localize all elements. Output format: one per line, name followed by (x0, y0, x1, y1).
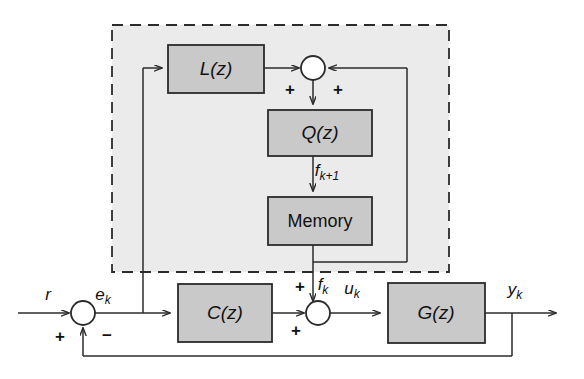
svg-text:uk: uk (344, 279, 360, 301)
signal-label-error: ek (95, 285, 111, 307)
svg-text:fk: fk (318, 275, 330, 297)
signal-label-control: uk (344, 279, 360, 301)
signal-reference-text: r (45, 285, 52, 304)
block-g-label: G(z) (418, 302, 455, 323)
signal-output-sub: k (516, 288, 523, 302)
top-summing-junction[interactable] (301, 56, 325, 80)
sign-control-top: + (295, 277, 305, 296)
block-l-label: L(z) (200, 58, 233, 79)
sign-error-plus: + (55, 327, 65, 346)
diagram-svg: L(z) Q(z) Memory C(z) G(z) + + + − + + (0, 0, 584, 379)
block-c[interactable]: C(z) (178, 284, 272, 342)
block-memory-label: Memory (287, 211, 352, 231)
svg-text:r: r (45, 285, 52, 304)
block-g[interactable]: G(z) (388, 283, 485, 343)
control-summing-junction[interactable] (306, 301, 330, 325)
sign-top-sum-right: + (333, 80, 343, 99)
sign-control-left: + (291, 321, 301, 340)
svg-text:yk: yk (507, 280, 524, 302)
signal-f-next-sub: k+1 (320, 169, 340, 183)
sign-error-minus: − (102, 326, 112, 345)
block-q[interactable]: Q(z) (268, 110, 372, 156)
block-c-label: C(z) (207, 302, 243, 323)
signal-f-current-sub: k (322, 283, 329, 297)
signal-label-f-current: fk (318, 275, 330, 297)
signal-label-output: yk (507, 280, 524, 302)
signal-error-text: e (95, 285, 104, 304)
block-memory[interactable]: Memory (268, 197, 372, 245)
block-diagram-canvas: L(z) Q(z) Memory C(z) G(z) + + + − + + (0, 0, 584, 379)
block-q-label: Q(z) (302, 122, 339, 143)
svg-text:ek: ek (95, 285, 111, 307)
sign-top-sum-left: + (285, 80, 295, 99)
signal-control-sub: k (354, 287, 361, 301)
signal-label-reference: r (45, 285, 52, 304)
block-l[interactable]: L(z) (168, 45, 264, 93)
error-summing-junction[interactable] (71, 301, 95, 325)
signal-error-sub: k (105, 293, 112, 307)
